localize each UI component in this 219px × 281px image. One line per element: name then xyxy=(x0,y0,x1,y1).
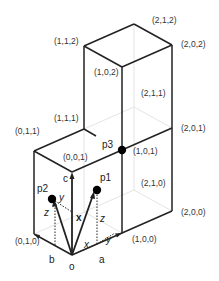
label-a: a xyxy=(99,254,105,265)
point-p1 xyxy=(93,186,101,194)
label-011: (0,1,1) xyxy=(15,126,40,136)
label-210: (2,1,0) xyxy=(141,178,166,188)
label-p1: p1 xyxy=(100,172,112,183)
arrowhead-a-icon xyxy=(115,233,122,238)
vector-p2 xyxy=(48,195,72,255)
label-p1-x: x xyxy=(83,239,90,250)
label-101: (1,0,1) xyxy=(133,146,158,156)
lattice-diagram: (1,1,2) (2,1,2) (2,0,2) (1,0,2) (2,1,1) … xyxy=(0,0,219,281)
label-p2: p2 xyxy=(37,183,49,194)
label-b: b xyxy=(49,254,55,265)
label-100: (1,0,0) xyxy=(132,234,157,244)
label-111: (1,1,1) xyxy=(54,113,79,123)
label-201: (2,0,1) xyxy=(181,123,206,133)
label-212: (2,1,2) xyxy=(152,15,177,25)
label-010: (0,1,0) xyxy=(15,236,40,246)
label-vector-x: x xyxy=(76,212,82,223)
label-112: (1,1,2) xyxy=(54,36,79,46)
label-c: c xyxy=(63,173,68,184)
arrowhead-c-icon xyxy=(70,172,75,179)
label-p1-z: z xyxy=(99,213,105,224)
label-102: (1,0,2) xyxy=(94,67,119,77)
label-001: (0,0,1) xyxy=(63,152,88,162)
label-p2-z: z xyxy=(43,207,49,218)
point-p2 xyxy=(48,195,56,203)
label-211: (2,1,1) xyxy=(141,88,166,98)
label-origin: o xyxy=(69,261,75,272)
label-200: (2,0,0) xyxy=(181,207,206,217)
label-202: (2,0,2) xyxy=(181,39,206,49)
label-p3: p3 xyxy=(102,139,114,150)
label-p2-y: y xyxy=(58,192,65,203)
point-p3 xyxy=(118,146,126,154)
label-p1-y: y xyxy=(105,234,112,245)
